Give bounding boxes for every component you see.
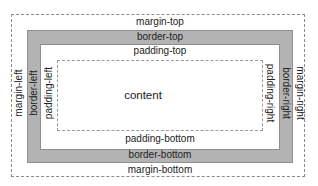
- padding-top-label: padding-top: [134, 45, 187, 57]
- margin-left-label: margin-left: [13, 69, 25, 116]
- margin-right-label: margin-right: [294, 66, 306, 119]
- border-left-label: border-left: [28, 70, 40, 116]
- margin-bottom-label: margin-bottom: [128, 164, 192, 176]
- padding-right-label: padding-right: [264, 64, 276, 122]
- border-right-label: border-right: [280, 67, 292, 119]
- border-bottom-label: border-bottom: [129, 149, 192, 161]
- content-label: content: [124, 89, 162, 102]
- padding-bottom-label: padding-bottom: [125, 133, 195, 145]
- margin-top-label: margin-top: [136, 16, 184, 28]
- padding-left-label: padding-left: [43, 67, 55, 119]
- border-top-label: border-top: [137, 31, 183, 43]
